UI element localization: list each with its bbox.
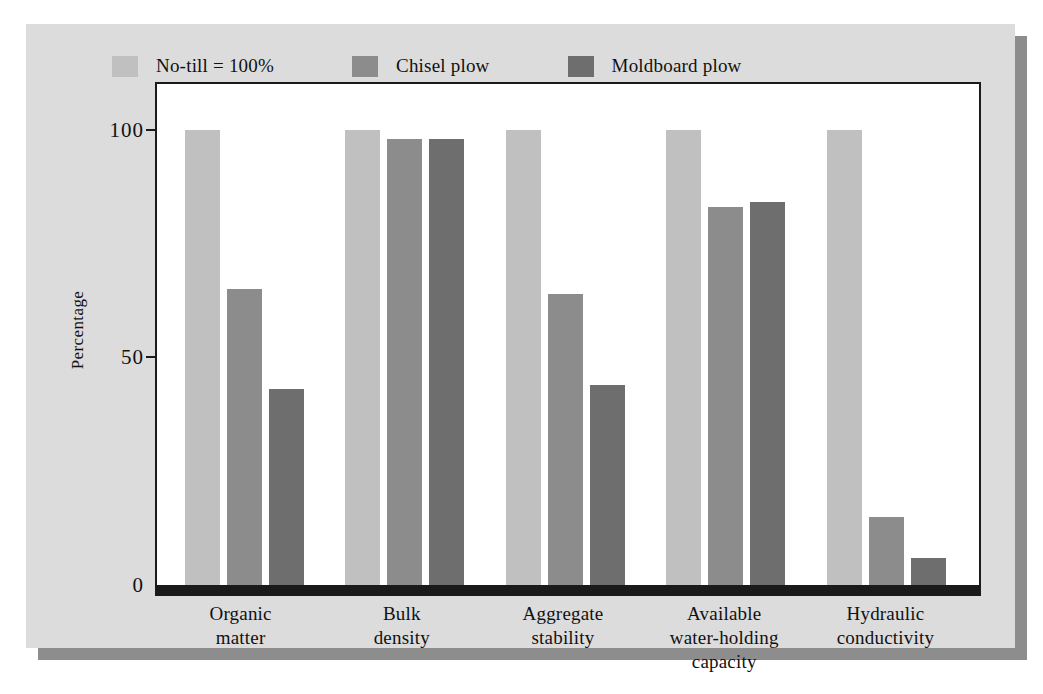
bar-bulk-density-chisel-plow [387, 139, 422, 585]
plot-area: 100 50 0 [157, 84, 979, 594]
bar-available-water-holding-capacity-moldboard-plow [750, 202, 785, 585]
bar-bulk-density-no-till [345, 130, 380, 585]
figure-root: No-till = 100% Chisel plow Moldboard plo… [0, 0, 1043, 694]
chart-legend: No-till = 100% Chisel plow Moldboard plo… [26, 46, 1015, 86]
bar-aggregate-stability-moldboard-plow [590, 385, 625, 585]
y-tick-mark-50 [146, 356, 157, 358]
bar-groups [157, 84, 979, 585]
bar-aggregate-stability-chisel-plow [548, 294, 583, 585]
bar-group-aggregate-stability [492, 84, 652, 585]
legend-swatch-no-till [112, 56, 138, 77]
x-label-available-water-holding-capacity: Availablewater-holdingcapacity [653, 602, 814, 674]
bar-hydraulic-conductivity-moldboard-plow [911, 558, 946, 585]
bar-available-water-holding-capacity-chisel-plow [708, 207, 743, 585]
legend-item-chisel-plow: Chisel plow [352, 55, 490, 77]
bar-hydraulic-conductivity-no-till [827, 130, 862, 585]
y-tick-mark-100 [146, 129, 157, 131]
x-axis-labels: Organicmatter Bulkdensity Aggregatestabi… [155, 602, 981, 674]
bar-bulk-density-moldboard-plow [429, 139, 464, 585]
bar-organic-matter-chisel-plow [227, 289, 262, 585]
y-axis-title: Percentage [68, 230, 88, 430]
legend-item-no-till: No-till = 100% [112, 55, 274, 77]
x-label-organic-matter: Organicmatter [169, 602, 330, 674]
legend-swatch-chisel-plow [352, 56, 378, 77]
bar-group-bulk-density [331, 84, 491, 585]
legend-label-moldboard-plow: Moldboard plow [612, 55, 742, 77]
plot-frame: 100 50 0 [155, 82, 981, 596]
legend-label-no-till: No-till = 100% [156, 55, 274, 77]
bar-organic-matter-moldboard-plow [269, 389, 304, 585]
figure-panel: No-till = 100% Chisel plow Moldboard plo… [26, 24, 1015, 648]
y-tick-label-0: 0 [133, 573, 158, 598]
bar-hydraulic-conductivity-chisel-plow [869, 517, 904, 585]
bar-group-organic-matter [171, 84, 331, 585]
x-label-aggregate-stability: Aggregatestability [491, 602, 652, 674]
bar-available-water-holding-capacity-no-till [666, 130, 701, 585]
x-axis-baseline [157, 585, 979, 594]
bar-group-hydraulic-conductivity [813, 84, 973, 585]
bar-organic-matter-no-till [185, 130, 220, 585]
x-label-hydraulic-conductivity: Hydraulicconductivity [814, 602, 975, 674]
x-label-bulk-density: Bulkdensity [330, 602, 491, 674]
bar-group-available-water-holding-capacity [652, 84, 812, 585]
legend-item-moldboard-plow: Moldboard plow [568, 55, 742, 77]
bar-aggregate-stability-no-till [506, 130, 541, 585]
legend-label-chisel-plow: Chisel plow [396, 55, 490, 77]
legend-swatch-moldboard-plow [568, 56, 594, 77]
